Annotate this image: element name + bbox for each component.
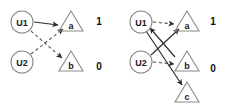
edge-u2-b-dashed xyxy=(153,62,174,64)
user-label-u2: U2 xyxy=(135,58,147,68)
edge-u1-a-solid xyxy=(34,22,58,25)
edge-u1-b-dashed xyxy=(31,31,62,58)
right-graph-svg: U1 U2 a b c 1 0 xyxy=(113,0,227,107)
left-item-a[interactable]: a xyxy=(59,11,83,31)
item-label-b: b xyxy=(68,61,74,71)
left-user-u1[interactable]: U1 xyxy=(11,11,33,33)
score-label-b: 0 xyxy=(96,61,102,72)
user-label-u2: U2 xyxy=(16,58,28,68)
item-label-b: b xyxy=(184,61,190,71)
left-graph-svg: U1 U2 a b 1 0 xyxy=(0,0,113,107)
item-label-a: a xyxy=(68,21,74,31)
figure-canvas: U1 U2 a b 1 0 xyxy=(0,0,227,107)
edge-u1-a-dashed xyxy=(153,22,174,24)
right-user-u1[interactable]: U1 xyxy=(130,11,152,33)
score-label-a: 1 xyxy=(96,16,102,27)
right-graph-panel: U1 U2 a b c 1 0 xyxy=(113,0,227,107)
item-label-c: c xyxy=(184,92,189,102)
right-user-u2[interactable]: U2 xyxy=(130,51,152,73)
left-edges xyxy=(31,22,63,58)
score-label-b: 0 xyxy=(210,63,216,74)
user-label-u1: U1 xyxy=(135,18,147,28)
left-item-b[interactable]: b xyxy=(59,51,83,71)
edge-u2-a-dashed xyxy=(31,29,63,54)
right-item-b[interactable]: b xyxy=(175,51,199,71)
edge-u2-a-solid xyxy=(151,29,179,55)
item-label-a: a xyxy=(184,21,190,31)
user-label-u1: U1 xyxy=(16,18,28,28)
right-item-a[interactable]: a xyxy=(175,11,199,31)
score-label-a: 1 xyxy=(210,16,216,27)
right-item-c[interactable]: c xyxy=(175,82,199,102)
left-graph-panel: U1 U2 a b 1 0 xyxy=(0,0,113,107)
left-user-u2[interactable]: U2 xyxy=(11,51,33,73)
